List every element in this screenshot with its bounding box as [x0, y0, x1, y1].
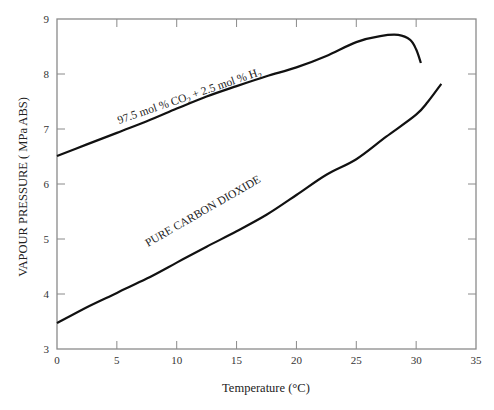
x-tick-labels: 05101520253035 [54, 354, 482, 366]
x-tick-label: 20 [291, 354, 303, 366]
x-tick-label: 0 [54, 354, 60, 366]
curve-co2-h2-mixture [57, 35, 421, 156]
x-tick-label: 10 [171, 354, 183, 366]
x-axis-title: Temperature (°C) [222, 381, 310, 395]
plot-border [57, 19, 476, 349]
y-axis-title: VAPOUR PRESSURE ( MPa ABS) [16, 97, 30, 277]
y-tick-label: 8 [44, 68, 50, 80]
y-tick-labels: 3456789 [44, 13, 50, 355]
x-tick-label: 30 [411, 354, 423, 366]
label-pure-co2: PURE CARBON DIOXIDE [143, 173, 262, 249]
vapour-pressure-chart: 05101520253035 3456789 97.5 mol % CO2 + … [0, 0, 494, 410]
y-tick-label: 9 [44, 13, 50, 25]
y-tick-label: 5 [44, 233, 50, 245]
x-tick-label: 15 [231, 354, 243, 366]
curve-pure-co2 [57, 84, 441, 323]
label-co2-h2-mixture: 97.5 mol % CO2 + 2.5 mol % H2 [116, 65, 264, 128]
x-tick-label: 25 [351, 354, 363, 366]
x-tick-label: 35 [471, 354, 483, 366]
y-tick-label: 4 [44, 288, 50, 300]
y-tick-label: 6 [44, 178, 50, 190]
plot-frame [57, 19, 476, 349]
y-tick-label: 7 [44, 123, 50, 135]
y-tick-label: 3 [44, 343, 50, 355]
axis-ticks [57, 19, 476, 349]
x-tick-label: 5 [114, 354, 120, 366]
